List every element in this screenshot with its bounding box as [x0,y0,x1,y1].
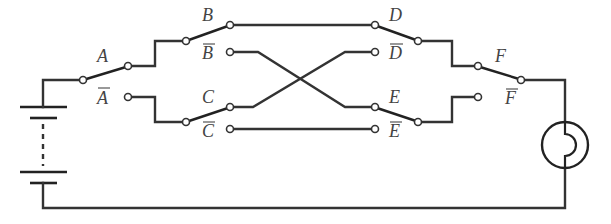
wire-battery-to-a [43,80,80,107]
switch-d[interactable]: D D [372,5,422,63]
switch-c[interactable]: C C [183,87,234,141]
switch-d-blade [377,26,416,40]
switch-f-terminal [475,63,482,70]
switch-d-terminal [372,22,379,29]
switch-f[interactable]: F F [475,46,525,108]
switch-b[interactable]: B B [183,5,234,63]
switch-f-common-terminal [518,77,525,84]
switch-f-label: F [494,46,507,66]
battery [20,107,67,183]
switch-abar-label: A [96,88,109,108]
switch-a[interactable]: A A [80,46,132,108]
switch-f-blade [480,67,519,79]
switch-b-terminal [227,22,234,29]
switch-cbar-terminal [227,126,234,133]
wire-bbar-to-e [233,52,372,107]
switch-a-terminal [125,63,132,70]
switch-e-label: E [388,87,400,107]
switch-a-blade [83,67,126,80]
switch-fbar-terminal [475,94,482,101]
switch-b-blade [186,26,228,41]
wire-return [43,168,565,208]
switch-a-common-terminal [80,77,87,84]
switch-cbar-label: C [202,121,215,141]
switch-e-common-terminal [415,119,422,126]
switch-b-common-terminal [183,38,190,45]
switch-b-label: B [202,5,213,25]
wire-d-to-f [421,41,475,66]
switch-d-label: D [388,5,402,25]
switch-e-blade [377,108,416,121]
switch-ebar-label: E [388,121,400,141]
switch-c-common-terminal [183,119,190,126]
switch-ebar-terminal [372,126,379,133]
switch-e[interactable]: E E [372,87,422,141]
wire-a-to-b [131,41,183,66]
switch-c-blade [186,108,228,122]
switch-dbar-terminal [372,49,379,56]
wires [43,25,565,208]
switch-abar-terminal [125,94,132,101]
switch-fbar-label: F [504,88,517,108]
switch-bbar-label: B [202,43,213,63]
circuit-diagram: A A B B C C D D E E [0,0,611,224]
switch-c-label: C [202,87,215,107]
lamp [542,122,588,168]
switch-e-terminal [372,104,379,111]
switch-dbar-label: D [388,43,402,63]
wire-e-to-fbar [421,97,475,122]
switch-c-terminal [227,104,234,111]
switch-a-label: A [96,46,109,66]
switch-bbar-terminal [227,49,234,56]
wire-abar-to-c [131,97,183,122]
switch-d-common-terminal [415,38,422,45]
wire-f-to-lamp [524,80,565,122]
